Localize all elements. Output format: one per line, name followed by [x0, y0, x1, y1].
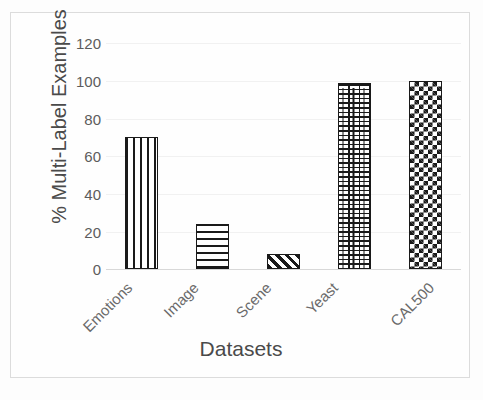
x-tick-label-scene: Scene — [232, 279, 274, 321]
gridline — [106, 232, 461, 233]
y-tick-label: 120 — [55, 35, 101, 52]
gridline — [106, 119, 461, 120]
chart-frame: % Multi-Label Examples 120 100 80 60 40 … — [10, 12, 470, 378]
x-tick-label-emotions: Emotions — [79, 279, 135, 335]
bar-scene[interactable] — [267, 254, 300, 269]
bar-yeast[interactable] — [338, 83, 371, 269]
y-tick-label: 20 — [55, 224, 101, 241]
x-tick-label-cal500: CAL500 — [387, 279, 437, 329]
gridline — [106, 194, 461, 195]
y-tick-label: 40 — [55, 186, 101, 203]
chart-figure: % Multi-Label Examples 120 100 80 60 40 … — [0, 0, 483, 400]
gridline — [106, 81, 461, 82]
y-tick-label: 80 — [55, 111, 101, 128]
y-tick-label: 60 — [55, 148, 101, 165]
x-axis-title: Datasets — [11, 337, 471, 361]
x-tick-label-yeast: Yeast — [303, 279, 341, 317]
y-tick-label: 0 — [55, 261, 101, 278]
gridline — [106, 43, 461, 44]
x-axis-line — [106, 269, 461, 270]
y-axis-tick-labels: 120 100 80 60 40 20 0 — [55, 43, 101, 271]
bar-image[interactable] — [196, 224, 229, 269]
gridline — [106, 156, 461, 157]
plot-area — [106, 43, 461, 271]
x-tick-label-image: Image — [160, 279, 202, 321]
bar-cal500[interactable] — [409, 81, 442, 269]
bar-emotions[interactable] — [125, 137, 158, 269]
y-tick-label: 100 — [55, 73, 101, 90]
